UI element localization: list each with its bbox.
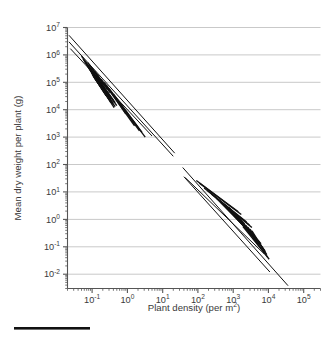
data-line-upper-envelope-1 bbox=[69, 35, 175, 153]
data-lines bbox=[69, 35, 288, 285]
y-tick-label-0: 100 bbox=[46, 213, 60, 225]
data-line-lower-trajectory-17 bbox=[252, 231, 265, 253]
plot-canvas: 10710610510410310210110010-110-210-11001… bbox=[0, 0, 334, 338]
bottom-rule bbox=[14, 327, 90, 330]
x-tick-label-5: 105 bbox=[297, 293, 311, 305]
axes bbox=[68, 28, 321, 289]
y-tick-labels: 10710610510410310210110010-110-2 bbox=[44, 21, 60, 279]
y-tick-label--2: 10-2 bbox=[44, 268, 60, 280]
data-line-lower-envelope-2 bbox=[184, 177, 270, 272]
x-axis-title: Plant density (per m2) bbox=[148, 301, 240, 313]
x-ticks bbox=[68, 289, 321, 294]
y-tick-label-7: 107 bbox=[46, 21, 60, 33]
x-tick-label--1: 10-1 bbox=[84, 293, 100, 305]
y-tick-label-6: 106 bbox=[46, 49, 60, 61]
x-tick-label-0: 100 bbox=[120, 293, 134, 305]
gridlines bbox=[68, 28, 321, 275]
y-tick-label-2: 102 bbox=[46, 158, 60, 170]
data-line-lower-envelope-3 bbox=[185, 178, 264, 254]
y-tick-label-4: 104 bbox=[46, 103, 60, 115]
y-ticks bbox=[63, 28, 68, 289]
y-tick-label-3: 103 bbox=[46, 131, 60, 143]
y-axis-title: Mean dry weight per plant (g) bbox=[12, 96, 23, 221]
x-tick-label-4: 104 bbox=[261, 293, 275, 305]
data-line-upper-envelope-2 bbox=[69, 42, 173, 156]
data-line-upper-trajectory-30 bbox=[113, 94, 142, 132]
y-tick-label--1: 10-1 bbox=[44, 240, 60, 252]
y-tick-label-5: 105 bbox=[46, 76, 60, 88]
y-tick-label-1: 101 bbox=[46, 186, 60, 198]
self-thinning-figure: 10710610510410310210110010-110-210-11001… bbox=[0, 0, 334, 338]
